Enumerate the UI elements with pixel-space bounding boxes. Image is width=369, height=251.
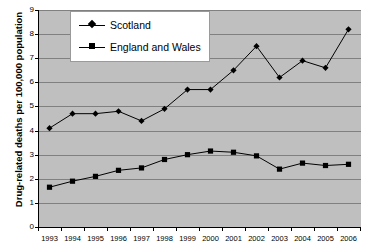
data-point-square bbox=[277, 167, 282, 172]
legend-diamond-marker-icon bbox=[79, 19, 105, 31]
legend-item-england-and-wales: England and Wales bbox=[79, 40, 201, 54]
data-point-square bbox=[47, 185, 52, 190]
legend-label-england-and-wales: England and Wales bbox=[110, 41, 201, 53]
legend-item-scotland: Scotland bbox=[79, 18, 151, 32]
data-point-diamond bbox=[115, 108, 121, 114]
data-point-square bbox=[116, 168, 121, 173]
data-point-square bbox=[231, 150, 236, 155]
data-point-diamond bbox=[69, 111, 75, 117]
data-point-square bbox=[185, 152, 190, 157]
series-england-and-wales bbox=[47, 148, 351, 189]
chart-container: Drug-related deaths per 100,000 populati… bbox=[0, 0, 369, 251]
data-point-square bbox=[70, 179, 75, 184]
data-point-diamond bbox=[46, 125, 52, 131]
data-point-square bbox=[323, 163, 328, 168]
data-point-diamond bbox=[322, 65, 328, 71]
data-point-square bbox=[162, 157, 167, 162]
data-point-diamond bbox=[92, 111, 98, 117]
data-point-square bbox=[346, 162, 351, 167]
data-point-square bbox=[254, 153, 259, 158]
chart-legend: Scotland England and Wales bbox=[70, 11, 210, 62]
data-point-square bbox=[93, 174, 98, 179]
legend-label-scotland: Scotland bbox=[110, 19, 151, 31]
series-line bbox=[50, 151, 349, 187]
data-point-square bbox=[139, 165, 144, 170]
data-point-diamond bbox=[138, 118, 144, 124]
data-point-square bbox=[300, 161, 305, 166]
data-point-diamond bbox=[345, 26, 351, 32]
legend-square-marker-icon bbox=[79, 41, 105, 53]
data-point-square bbox=[208, 148, 213, 153]
